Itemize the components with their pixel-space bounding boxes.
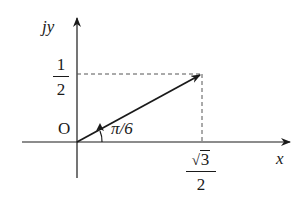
y-axis-label: jy: [42, 18, 54, 35]
x-axis-label: x: [276, 150, 284, 167]
fraction-bar: [53, 76, 69, 77]
y-component-denominator: 2: [57, 81, 66, 98]
sqrt-icon: √: [192, 153, 200, 168]
x-component-numerator: √3: [192, 150, 211, 168]
phasor-vector: [77, 75, 200, 142]
y-component-numerator: 1: [57, 56, 66, 73]
x-component-fraction: √3 2: [186, 150, 216, 193]
angle-arc: [100, 131, 102, 142]
x-component-radicand: 3: [200, 150, 211, 168]
x-component-denominator: 2: [197, 176, 206, 193]
origin-label: O: [58, 120, 70, 137]
phasor-diagram: jy O x π/6 1 2 √3 2: [0, 0, 307, 212]
fraction-bar: [186, 171, 216, 172]
angle-label: π/6: [111, 120, 133, 137]
y-component-fraction: 1 2: [53, 56, 69, 98]
